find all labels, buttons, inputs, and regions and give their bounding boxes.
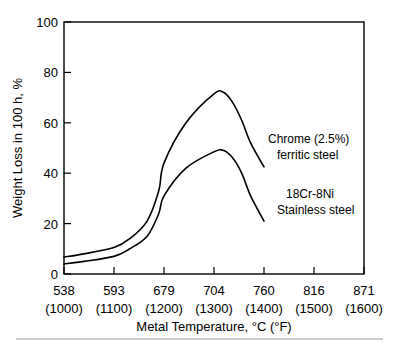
series-annotation-stainless: 18Cr-8Ni Stainless steel <box>277 187 354 217</box>
x-tick-label-f-1600: (1600) <box>345 301 383 316</box>
x-tick-label-f-1300: (1300) <box>195 301 233 316</box>
y-tick-label-60: 60 <box>44 116 58 131</box>
y-axis-title: Weight Loss in 100 h, % <box>10 78 25 218</box>
series-label-chrome-line2: ferritic steel <box>277 148 338 162</box>
x-tick-label-c-593: 593 <box>103 283 125 298</box>
x-axis-ticks <box>64 267 364 274</box>
x-tick-label-c-871: 871 <box>353 283 375 298</box>
y-tick-label-80: 80 <box>44 65 58 80</box>
y-tick-label-20: 20 <box>44 217 58 232</box>
x-tick-label-c-538: 538 <box>53 283 75 298</box>
weight-loss-vs-temperature-chart: 0 20 40 60 80 100 Weight Loss in 100 h, … <box>0 0 399 346</box>
x-tick-label-c-760: 760 <box>253 283 275 298</box>
x-axis-tick-labels-fahrenheit: (1000) (1100) (1200) (1300) (1400) (1500… <box>45 301 383 316</box>
y-tick-label-40: 40 <box>44 166 58 181</box>
x-tick-label-f-1100: (1100) <box>96 301 133 316</box>
curve-chrome-ferritic-steel <box>64 91 264 257</box>
y-tick-label-0: 0 <box>51 267 58 282</box>
x-axis-title: Metal Temperature, °C (°F) <box>136 319 291 334</box>
curve-18cr-8ni-stainless-steel <box>64 150 264 264</box>
x-tick-label-f-1000: (1000) <box>45 301 83 316</box>
x-tick-label-f-1500: (1500) <box>295 301 333 316</box>
y-axis-ticks <box>64 22 71 274</box>
x-tick-label-c-816: 816 <box>303 283 325 298</box>
series-label-chrome-line1: Chrome (2.5%) <box>268 132 349 146</box>
x-tick-label-f-1200: (1200) <box>145 301 183 316</box>
y-tick-label-100: 100 <box>36 15 58 30</box>
series-label-stainless-line1: 18Cr-8Ni <box>286 187 334 201</box>
x-tick-label-f-1400: (1400) <box>245 301 283 316</box>
x-tick-label-c-679: 679 <box>153 283 175 298</box>
x-tick-label-c-704: 704 <box>203 283 225 298</box>
x-axis-tick-labels-celsius: 538 593 679 704 760 816 871 <box>53 283 375 298</box>
series-label-stainless-line2: Stainless steel <box>277 203 354 217</box>
chart-figure: 0 20 40 60 80 100 Weight Loss in 100 h, … <box>0 0 399 346</box>
series-annotation-chrome: Chrome (2.5%) ferritic steel <box>268 132 349 162</box>
y-axis-tick-labels: 0 20 40 60 80 100 <box>36 15 58 282</box>
